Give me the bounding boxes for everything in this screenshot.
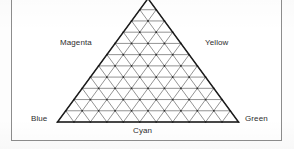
mesh-nodes (57, 9, 240, 123)
edge-label-cyan: Cyan (133, 126, 152, 135)
edge-label-magenta: Magenta (60, 38, 92, 47)
triangle-mesh (58, 0, 239, 122)
vertex-label-green: Green (245, 114, 268, 123)
vertex-label-blue: Blue (31, 114, 47, 123)
triangle-outline (58, 0, 239, 122)
edge-label-yellow: Yellow (205, 38, 228, 47)
figure-page: Magenta Yellow Blue Green Cyan (0, 0, 294, 149)
